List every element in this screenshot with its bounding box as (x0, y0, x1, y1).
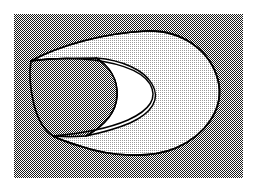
figure-svg (0, 0, 257, 190)
figure-container: Cusped lune / Joukowski-type conformal m… (0, 0, 257, 190)
